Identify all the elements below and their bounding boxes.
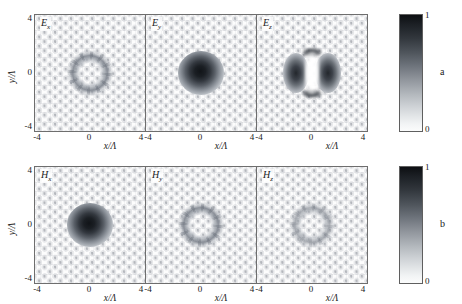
y-tick-0-a: 0 <box>28 67 33 77</box>
x-tick-neg4: -4 <box>33 132 41 142</box>
x-axis-label-ez: x/Λ <box>326 141 339 151</box>
x-tick-0: 0 <box>198 132 203 142</box>
x-tick-neg4: -4 <box>144 284 152 294</box>
x-tick-4: 4 <box>139 132 144 142</box>
panel-label-sub: y <box>158 23 161 31</box>
panel-label-sub: z <box>270 175 273 183</box>
x-tick-neg4: -4 <box>33 284 41 294</box>
panel-hx: Hx <box>34 166 146 284</box>
field-distribution-figure: y/Λ 4 0 -4 Ex -4 0 4 x/Λ Ey -4 0 4 x <box>0 0 462 304</box>
x-tick-0: 0 <box>87 132 92 142</box>
panel-label-ez: Ez <box>262 17 273 31</box>
y-tick-4-b: 4 <box>28 165 33 175</box>
x-axis-label-hz: x/Λ <box>326 293 339 303</box>
panel-label-hz: Hz <box>262 169 274 183</box>
x-axis-label-hy: x/Λ <box>215 293 228 303</box>
panel-label-ex: Ex <box>40 17 51 31</box>
panel-hy: Hy <box>145 166 257 284</box>
y-axis-ticks-b: 4 0 -4 <box>14 166 32 282</box>
field-feature-ring <box>176 201 226 249</box>
x-axis-label-ex: x/Λ <box>104 141 117 151</box>
colorbar-a <box>399 14 423 132</box>
panel-hz: Hz <box>256 166 368 284</box>
field-feature-ring <box>287 201 337 249</box>
x-tick-0: 0 <box>309 132 314 142</box>
bright-band <box>305 52 320 94</box>
panel-ex: Ex <box>34 14 146 132</box>
figure-row-a: y/Λ 4 0 -4 Ex -4 0 4 x/Λ Ey -4 0 4 x <box>0 0 462 152</box>
panel-label-sub: x <box>48 175 51 183</box>
x-axis-ticks-hz: -4 0 4 <box>256 284 366 296</box>
y-tick-neg4-a: -4 <box>25 121 33 131</box>
x-tick-4: 4 <box>250 132 255 142</box>
x-tick-4: 4 <box>361 284 366 294</box>
y-axis-ticks-a: 4 0 -4 <box>14 14 32 130</box>
y-tick-0-b: 0 <box>28 219 33 229</box>
colorbar-max-label-b: 1 <box>425 162 430 172</box>
panel-ey: Ey <box>145 14 257 132</box>
colorbar-min-label-b: 0 <box>425 276 430 286</box>
x-tick-0: 0 <box>309 284 314 294</box>
x-axis-ticks-hy: -4 0 4 <box>145 284 255 296</box>
x-axis-label-ey: x/Λ <box>215 141 228 151</box>
panel-label-ey: Ey <box>151 17 162 31</box>
panel-label-hx: Hx <box>40 169 52 183</box>
x-tick-0: 0 <box>198 284 203 294</box>
x-axis-ticks-hx: -4 0 4 <box>34 284 144 296</box>
y-tick-neg4-b: -4 <box>25 273 33 283</box>
colorbar-b <box>399 166 423 284</box>
x-tick-4: 4 <box>139 284 144 294</box>
field-feature-blob <box>178 51 224 95</box>
panel-label-sub: y <box>159 175 162 183</box>
field-feature-blob <box>67 203 113 247</box>
x-tick-neg4: -4 <box>255 284 263 294</box>
x-axis-label-hx: x/Λ <box>104 293 117 303</box>
x-tick-neg4: -4 <box>255 132 263 142</box>
row-letter-a: a <box>440 66 444 77</box>
row-letter-b: b <box>440 218 445 229</box>
panel-label-sub: z <box>269 23 272 31</box>
x-tick-4: 4 <box>361 132 366 142</box>
panel-ez: Ez <box>256 14 368 132</box>
x-tick-neg4: -4 <box>144 132 152 142</box>
figure-row-b: y/Λ 4 0 -4 Hx -4 0 4 x/Λ Hy -4 0 4 x <box>0 152 462 304</box>
field-feature-ring <box>65 49 115 97</box>
x-tick-0: 0 <box>87 284 92 294</box>
x-axis-ticks-ex: -4 0 4 <box>34 132 144 144</box>
x-axis-ticks-ez: -4 0 4 <box>256 132 366 144</box>
colorbar-min-label-a: 0 <box>425 124 430 134</box>
panel-label-hy: Hy <box>151 169 163 183</box>
x-tick-4: 4 <box>250 284 255 294</box>
colorbar-max-label-a: 1 <box>425 10 430 20</box>
x-axis-ticks-ey: -4 0 4 <box>145 132 255 144</box>
field-feature-lobes <box>286 49 338 97</box>
y-tick-4-a: 4 <box>28 13 33 23</box>
panel-label-sub: x <box>47 23 50 31</box>
